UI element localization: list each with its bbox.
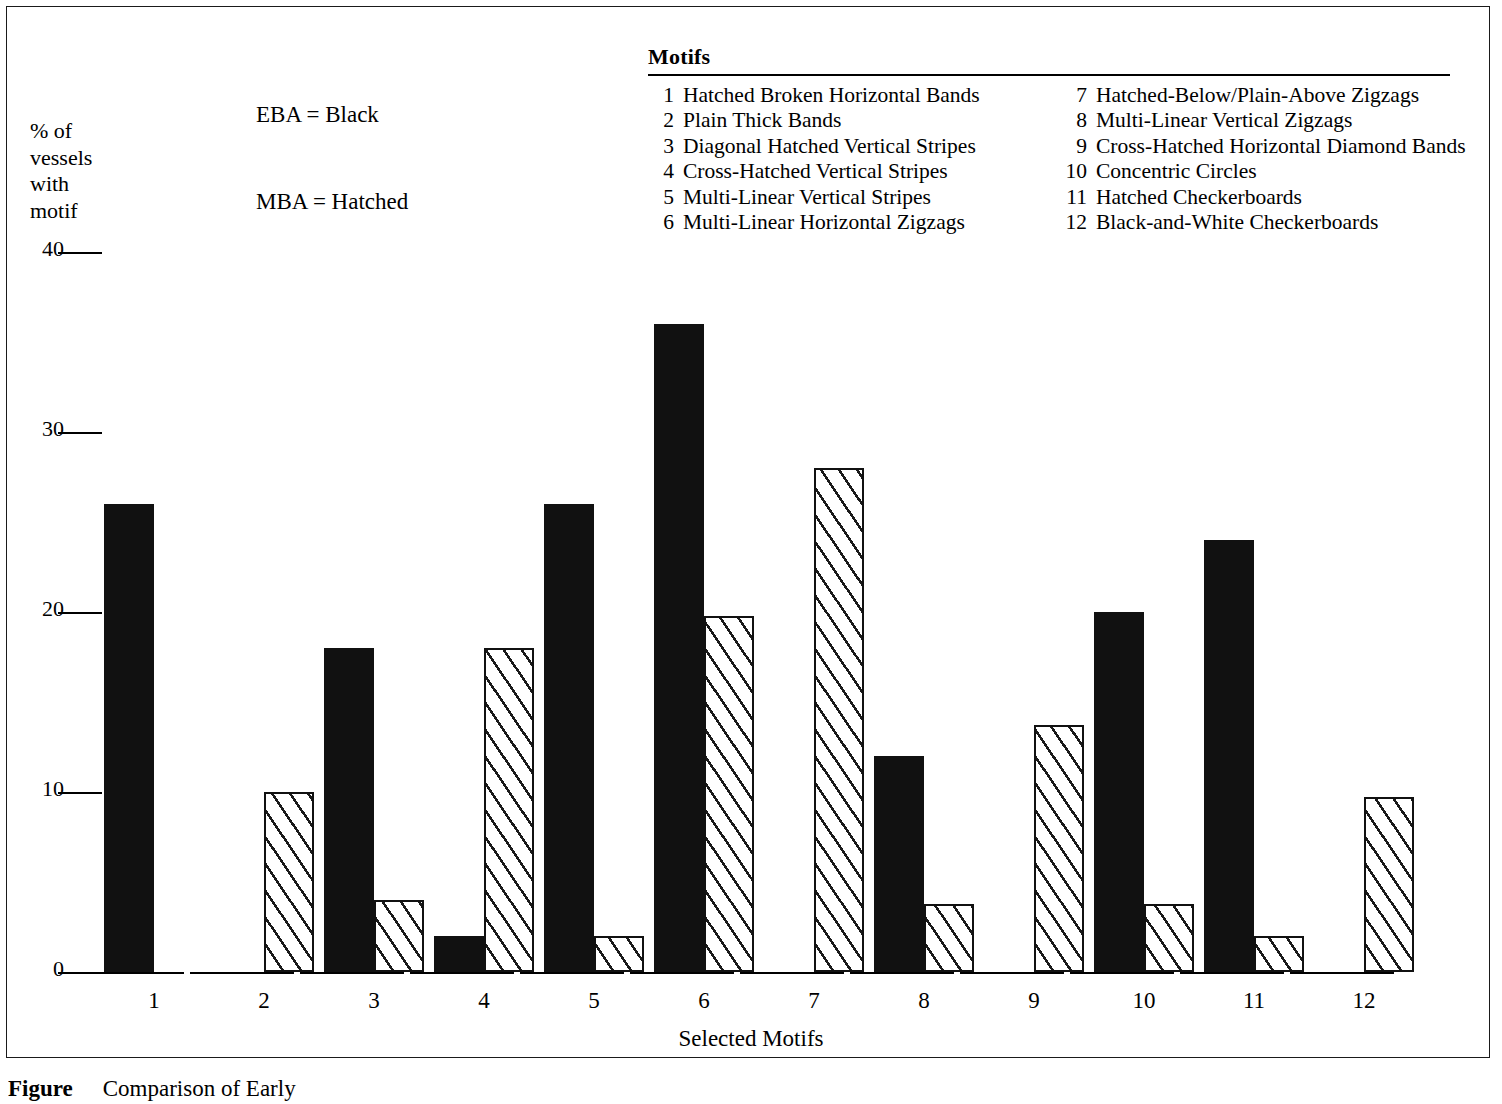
x-axis-tick-label: 7	[784, 988, 844, 1014]
y-axis-tick-label: 20	[20, 596, 64, 622]
y-axis-tick-label: 0	[20, 956, 64, 982]
y-axis-tick-mark	[58, 792, 102, 794]
x-axis-tick-label: 10	[1114, 988, 1174, 1014]
y-axis-tick-label: 40	[20, 236, 64, 262]
bar-mba	[594, 936, 644, 972]
figure-page: EBA = Black MBA = Hatched Motifs 1Hatche…	[0, 0, 1502, 1104]
x-axis-tick-label: 6	[674, 988, 734, 1014]
bar-eba	[434, 936, 484, 972]
bar-mba	[924, 904, 974, 972]
bar-mba	[264, 792, 314, 972]
bar-mba	[1034, 725, 1084, 972]
x-axis-tick-label: 4	[454, 988, 514, 1014]
x-axis-segment	[80, 972, 184, 974]
x-axis-tick-label: 9	[1004, 988, 1064, 1014]
x-axis-segment	[850, 972, 954, 974]
x-axis-segment	[410, 972, 514, 974]
x-axis-segment	[740, 972, 844, 974]
bar-mba	[814, 468, 864, 972]
x-axis-segment	[630, 972, 734, 974]
bar-mba	[1364, 797, 1414, 972]
x-axis-title: Selected Motifs	[0, 1026, 1502, 1052]
y-axis-tick-mark	[58, 252, 102, 254]
y-axis-tick-mark	[58, 612, 102, 614]
y-axis-tick-label: 30	[20, 416, 64, 442]
x-axis-tick-label: 3	[344, 988, 404, 1014]
x-axis-tick-label: 5	[564, 988, 624, 1014]
bar-eba	[104, 504, 154, 972]
figure-caption-text: Comparison of Early	[103, 1076, 296, 1101]
bar-eba	[874, 756, 924, 972]
bar-mba	[374, 900, 424, 972]
x-axis-tick-label: 8	[894, 988, 954, 1014]
bar-eba	[1204, 540, 1254, 972]
bar-chart-plot: 010203040123456789101112	[0, 0, 1502, 1104]
bar-eba	[544, 504, 594, 972]
x-axis-tick-label: 12	[1334, 988, 1394, 1014]
x-axis-segment	[520, 972, 624, 974]
bar-mba	[704, 616, 754, 972]
x-axis-tick-label: 2	[234, 988, 294, 1014]
figure-caption-label: Figure	[8, 1076, 73, 1101]
x-axis-segment	[1290, 972, 1394, 974]
bar-mba	[1144, 904, 1194, 972]
bar-eba	[1094, 612, 1144, 972]
x-axis-segment	[190, 972, 294, 974]
figure-caption: FigureComparison of Early	[8, 1074, 1488, 1104]
bar-mba	[484, 648, 534, 972]
x-axis-tick-label: 11	[1224, 988, 1284, 1014]
x-axis-segment	[960, 972, 1064, 974]
x-axis-segment	[1180, 972, 1284, 974]
y-axis-tick-label: 10	[20, 776, 64, 802]
x-axis-tick-label: 1	[124, 988, 184, 1014]
x-axis-segment	[1070, 972, 1174, 974]
bar-mba	[1254, 936, 1304, 972]
bar-eba	[324, 648, 374, 972]
y-axis-tick-mark	[58, 432, 102, 434]
bar-eba	[654, 324, 704, 972]
x-axis-segment	[300, 972, 404, 974]
